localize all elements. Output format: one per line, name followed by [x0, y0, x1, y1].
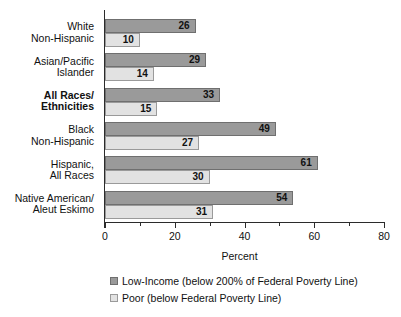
- x-tick-major: [384, 222, 385, 228]
- bar-low-income: 33: [105, 88, 220, 102]
- bar-low-income: 29: [105, 53, 206, 67]
- x-tick-major: [105, 222, 106, 228]
- bar-poor: 30: [105, 170, 210, 184]
- chart-legend: Low-Income (below 200% of Federal Povert…: [110, 272, 395, 306]
- x-tick-label: 20: [169, 230, 181, 242]
- x-tick-minor: [210, 222, 211, 226]
- bar-low-income: 61: [105, 156, 318, 170]
- bar-value-label: 31: [196, 207, 212, 217]
- x-axis-title-text: Percent: [221, 250, 257, 262]
- x-tick-label: 80: [378, 230, 390, 242]
- plot-area: 261029143315492761305431 020406080: [105, 16, 384, 222]
- bar-group: 3315: [105, 85, 384, 119]
- x-tick-major: [314, 222, 315, 228]
- category-label-line: Non-Hispanic: [31, 33, 94, 45]
- bar-value-label: 15: [140, 104, 156, 114]
- category-axis-labels: WhiteNon-HispanicAsian/PacificIslanderAl…: [0, 16, 100, 222]
- category-label-line: White: [31, 21, 94, 33]
- category-label-line: Islander: [34, 67, 94, 79]
- category-label: All Races/Ethnicities: [41, 90, 94, 113]
- bar-value-label: 14: [137, 69, 153, 79]
- category-label-line: Aleut Eskimo: [15, 204, 94, 216]
- x-axis-title: Percent: [0, 250, 401, 262]
- bar-group: 2914: [105, 50, 384, 84]
- bar-value-label: 33: [203, 90, 219, 100]
- bar-poor: 15: [105, 102, 157, 116]
- category-label-line: Ethnicities: [41, 101, 94, 113]
- category-label-line: Non-Hispanic: [31, 136, 94, 148]
- x-tick-minor: [349, 222, 350, 226]
- bar-value-label: 30: [193, 172, 209, 182]
- bar-group: 2610: [105, 16, 384, 50]
- legend-item[interactable]: Low-Income (below 200% of Federal Povert…: [110, 272, 395, 289]
- bar-value-label: 61: [301, 158, 317, 168]
- bar-chart: WhiteNon-HispanicAsian/PacificIslanderAl…: [0, 0, 401, 317]
- bar-value-label: 27: [182, 138, 198, 148]
- x-tick-label: 40: [239, 230, 251, 242]
- category-label: WhiteNon-Hispanic: [31, 21, 94, 44]
- legend-swatch-icon: [110, 294, 118, 302]
- category-label-line: All Races: [50, 170, 94, 182]
- x-tick-minor: [140, 222, 141, 226]
- x-tick-major: [175, 222, 176, 228]
- x-tick-major: [245, 222, 246, 228]
- bar-poor: 31: [105, 205, 213, 219]
- bar-value-label: 54: [276, 193, 292, 203]
- x-tick-label: 0: [102, 230, 108, 242]
- bar-low-income: 26: [105, 19, 196, 33]
- bar-group: 4927: [105, 119, 384, 153]
- category-label-line: Black: [31, 124, 94, 136]
- bar-value-label: 26: [179, 21, 195, 31]
- category-label: Native American/Aleut Eskimo: [15, 193, 94, 216]
- bar-poor: 10: [105, 33, 140, 47]
- category-label: Asian/PacificIslander: [34, 56, 94, 79]
- category-label: BlackNon-Hispanic: [31, 124, 94, 147]
- category-label: Hispanic,All Races: [50, 159, 94, 182]
- bar-value-label: 29: [189, 55, 205, 65]
- bar-group: 6130: [105, 153, 384, 187]
- bar-poor: 14: [105, 67, 154, 81]
- bar-low-income: 54: [105, 191, 293, 205]
- legend-item[interactable]: Poor (below Federal Poverty Line): [110, 289, 395, 306]
- legend-label: Low-Income (below 200% of Federal Povert…: [122, 275, 358, 287]
- bar-poor: 27: [105, 136, 199, 150]
- bar-group: 5431: [105, 188, 384, 222]
- bar-low-income: 49: [105, 122, 276, 136]
- x-tick-minor: [279, 222, 280, 226]
- bar-value-label: 49: [259, 124, 275, 134]
- bar-value-label: 10: [123, 35, 139, 45]
- legend-label: Poor (below Federal Poverty Line): [122, 292, 281, 304]
- legend-swatch-icon: [110, 277, 118, 285]
- x-tick-label: 60: [308, 230, 320, 242]
